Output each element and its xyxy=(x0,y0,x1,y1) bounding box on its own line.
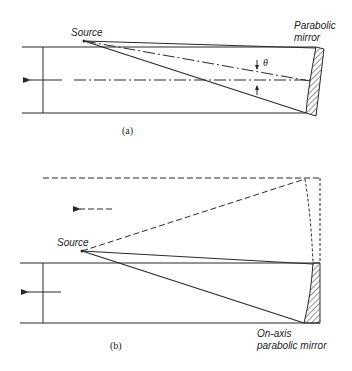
angle-theta-indicator xyxy=(255,60,259,95)
panel-a: θ Source Parabolic mirror (a) xyxy=(22,20,336,137)
source-label-a: Source xyxy=(71,27,103,38)
parent-mirror-curve-dashed xyxy=(305,179,313,263)
caption-b: (b) xyxy=(110,340,122,352)
source-label-b: Source xyxy=(57,237,89,248)
panel-b: Source On-axis parabolic mirror (b) xyxy=(20,178,327,352)
mirror-label-a-line1: Parabolic xyxy=(294,20,336,31)
dashed-ray-to-parent xyxy=(82,179,305,251)
source-point xyxy=(83,40,86,43)
diagram-canvas: θ Source Parabolic mirror (a) Source On-… xyxy=(0,0,352,371)
angle-theta-label: θ xyxy=(263,57,268,68)
parabolic-mirror xyxy=(306,47,324,116)
mirror-label-b-line1: On-axis xyxy=(257,328,291,339)
marginal-ray-lower xyxy=(84,41,306,113)
caption-a: (a) xyxy=(122,125,133,137)
mirror-label-b-line2: parabolic mirror xyxy=(256,340,327,351)
on-axis-parabolic-mirror xyxy=(304,263,320,323)
optics-figure: θ Source Parabolic mirror (a) Source On-… xyxy=(0,0,352,371)
mirror-label-a-line2: mirror xyxy=(294,32,321,43)
source-point-b xyxy=(81,250,84,253)
